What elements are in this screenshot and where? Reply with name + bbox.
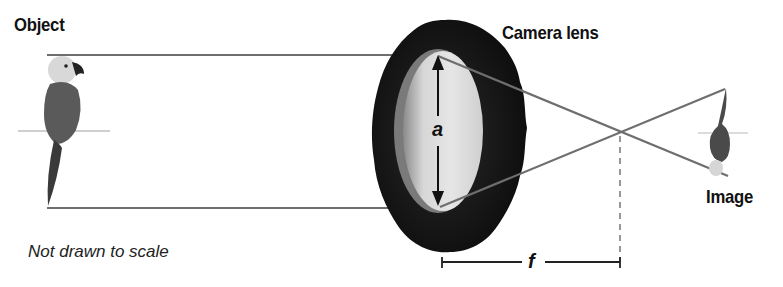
image-label: Image xyxy=(706,186,753,208)
not-to-scale-note: Not drawn to scale xyxy=(28,242,169,262)
camera-lens xyxy=(372,20,527,252)
aperture-variable-label: a xyxy=(432,118,443,141)
object-label: Object xyxy=(14,14,64,36)
focal-length-variable-label: f xyxy=(528,250,535,273)
camera-lens-label: Camera lens xyxy=(502,22,599,44)
parrot-object-icon xyxy=(18,56,110,206)
parrot-image-icon xyxy=(698,88,748,176)
